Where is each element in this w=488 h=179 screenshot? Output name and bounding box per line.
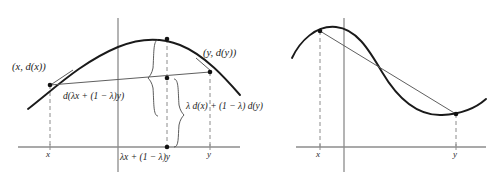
right-marker-y (454, 112, 459, 117)
left-marker-curve-mid (165, 37, 170, 42)
left-point-label-y: (y, d(y)) (203, 48, 236, 59)
right-axis-tick-label-y: y (453, 150, 457, 159)
concavity-figure: (x, d(x)) (y, d(y)) d(λx + (1 − λ)y) λ d… (0, 0, 488, 179)
figure-canvas (0, 0, 488, 179)
left-point-label-x: (x, d(x)) (12, 62, 46, 73)
left-marker-chord-mid (165, 76, 170, 81)
left-marker-y (208, 70, 213, 75)
left-chord-value-label: λ d(x) + (1 − λ) d(y) (186, 102, 263, 112)
left-axis-tick-label-y: y (207, 150, 211, 159)
left-brace-curve-value (148, 40, 158, 116)
left-marker-axis-mid (165, 145, 170, 150)
right-marker-x (318, 29, 323, 34)
left-chord-line (50, 72, 210, 85)
left-axis-tick-label-x: x (46, 150, 50, 159)
left-axis-tick-label-mid: λx + (1 − λ)y (120, 153, 170, 163)
right-axis-tick-label-x: x (316, 150, 320, 159)
left-marker-x (48, 83, 53, 88)
right-chord-line (320, 31, 456, 114)
left-brace-chord-value (174, 79, 184, 147)
left-curve-value-label: d(λx + (1 − λ)y) (63, 92, 124, 102)
right-sigmoid-curve (292, 27, 486, 115)
